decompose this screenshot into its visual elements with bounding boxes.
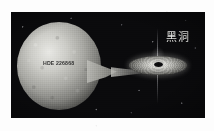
black-hole-core xyxy=(154,62,163,67)
supergiant-star: HDE 226868 xyxy=(17,22,129,110)
black-hole-system xyxy=(129,54,189,78)
black-hole-label: 黑洞 xyxy=(166,32,190,43)
astronomy-figure-panel: HDE 226868 黑洞 xyxy=(11,12,205,118)
star-name-label: HDE 226868 xyxy=(43,60,74,66)
figure-page: HDE 226868 黑洞 xyxy=(0,0,214,131)
